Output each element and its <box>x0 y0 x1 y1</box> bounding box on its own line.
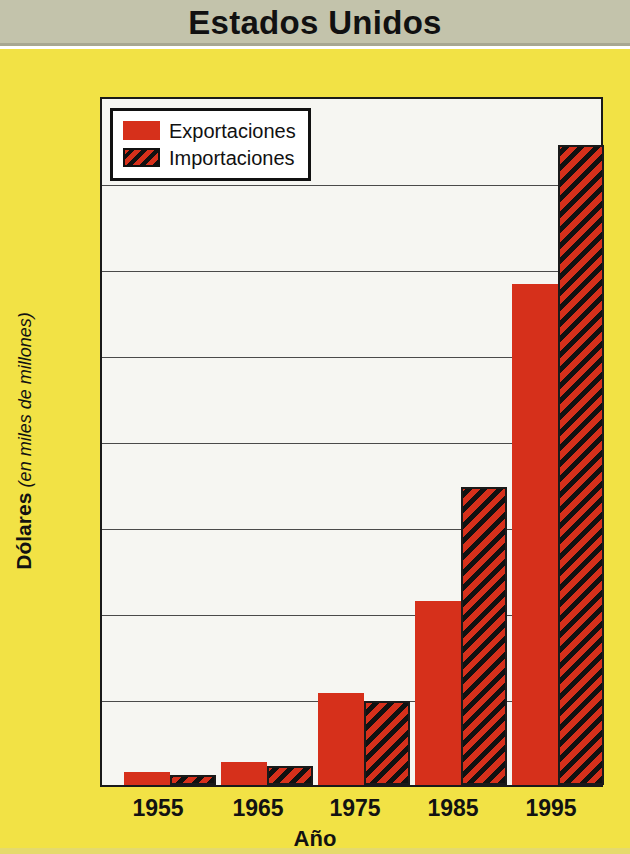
x-tick-1975: 1975 <box>300 795 410 822</box>
chart-figure: Dólares (en miles de millones) 800 700 6… <box>0 49 630 854</box>
legend-swatch-exportaciones-icon <box>123 121 160 140</box>
bar-importaciones-1975 <box>364 701 410 785</box>
plot-area: Exportaciones Importaciones <box>100 97 603 787</box>
bar-importaciones-1965 <box>267 766 313 785</box>
x-tick-1955: 1955 <box>103 795 213 822</box>
y-axis-label-unit: (en miles de millones) <box>15 312 35 487</box>
chart-legend: Exportaciones Importaciones <box>110 108 311 181</box>
legend-label-importaciones: Importaciones <box>169 148 295 168</box>
bar-importaciones-1955 <box>170 775 216 785</box>
legend-swatch-importaciones-icon <box>123 148 160 167</box>
legend-item-exportaciones: Exportaciones <box>123 117 296 144</box>
y-axis-label: Dólares (en miles de millones) <box>12 181 36 701</box>
chart-title: Estados Unidos <box>188 6 442 39</box>
x-axis-label: Año <box>0 826 630 852</box>
bar-importaciones-1985 <box>461 487 507 785</box>
legend-item-importaciones: Importaciones <box>123 144 296 171</box>
bar-importaciones-1995 <box>558 145 604 785</box>
legend-label-exportaciones: Exportaciones <box>169 121 296 141</box>
title-banner: Estados Unidos <box>0 0 630 46</box>
bar-exportaciones-1995 <box>512 284 558 785</box>
bar-exportaciones-1965 <box>221 762 267 785</box>
bar-exportaciones-1955 <box>124 772 170 785</box>
y-axis-label-main: Dólares <box>12 493 35 570</box>
bar-exportaciones-1985 <box>415 601 461 785</box>
gridline-600 <box>102 271 601 272</box>
bar-exportaciones-1975 <box>318 693 364 785</box>
x-tick-1985: 1985 <box>398 795 508 822</box>
gridline-700 <box>102 185 601 186</box>
x-tick-1995: 1995 <box>496 795 606 822</box>
x-tick-1965: 1965 <box>203 795 313 822</box>
